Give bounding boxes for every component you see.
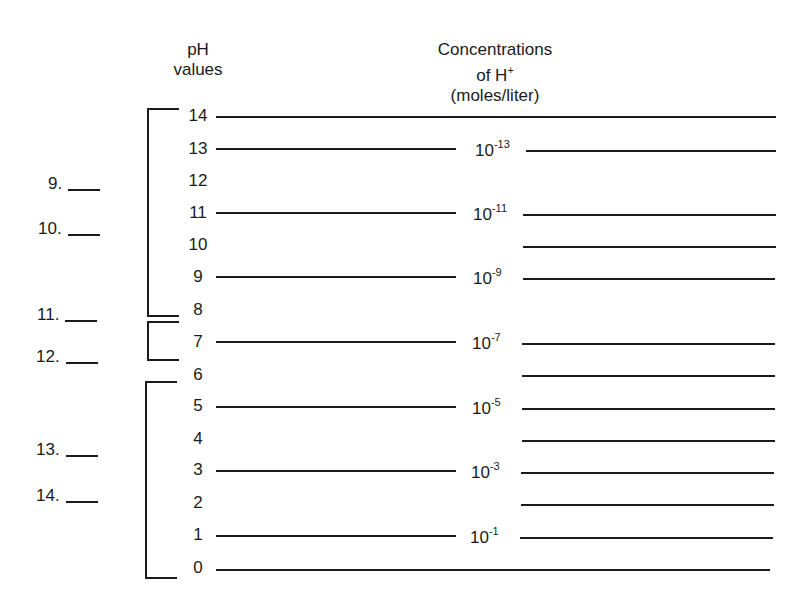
bracket-neutral — [147, 321, 179, 361]
answer-blank-14[interactable] — [66, 501, 98, 503]
line-right-ph-11 — [523, 214, 776, 216]
answer-blank-12[interactable] — [66, 362, 98, 364]
answer-9[interactable]: 9. — [48, 174, 100, 194]
ph-value-4: 4 — [183, 429, 213, 449]
line-ph-0 — [216, 569, 770, 571]
ph-value-6: 6 — [183, 365, 213, 385]
line-right-ph-7 — [522, 343, 775, 345]
ph-value-13: 13 — [183, 139, 213, 159]
ph-value-2: 2 — [183, 493, 213, 513]
line-right-ph-4 — [522, 440, 775, 442]
answer-11[interactable]: 11. — [37, 305, 97, 325]
conc-header-line3: (moles/liter) — [400, 86, 590, 106]
conc-header-line2: of H+ — [400, 60, 590, 86]
bracket-acidic — [145, 381, 177, 579]
conc-label-ph-9: 10-9 — [473, 269, 502, 289]
ph-value-0: 0 — [183, 558, 213, 578]
line-left-ph-3 — [216, 470, 456, 472]
line-right-ph-2 — [521, 504, 774, 506]
line-ph-14 — [216, 116, 776, 118]
ph-header: pH values — [168, 40, 228, 80]
conc-label-ph-1: 10-1 — [470, 528, 499, 548]
line-left-ph-5 — [216, 406, 456, 408]
line-left-ph-13 — [216, 148, 456, 150]
ph-value-7: 7 — [183, 332, 213, 352]
conc-label-ph-5: 10-5 — [472, 399, 501, 419]
line-right-ph-1 — [520, 537, 773, 539]
line-right-ph-9 — [523, 278, 775, 280]
ph-value-3: 3 — [183, 460, 213, 480]
answer-blank-13[interactable] — [66, 455, 98, 457]
line-left-ph-11 — [216, 212, 456, 214]
ph-value-8: 8 — [183, 300, 213, 320]
bracket-basic — [147, 108, 179, 317]
ph-value-5: 5 — [183, 396, 213, 416]
ph-header-line1: pH — [168, 40, 228, 60]
answer-blank-10[interactable] — [68, 234, 100, 236]
answer-10[interactable]: 10. — [38, 219, 100, 239]
line-right-ph-13 — [526, 150, 776, 152]
line-left-ph-9 — [216, 276, 456, 278]
answer-blank-11[interactable] — [65, 320, 97, 322]
answer-13[interactable]: 13. — [36, 440, 98, 460]
line-right-ph-5 — [522, 408, 775, 410]
conc-label-ph-13: 10-13 — [475, 141, 510, 161]
ph-value-12: 12 — [183, 171, 213, 191]
ph-header-line2: values — [168, 60, 228, 80]
line-left-ph-7 — [216, 341, 456, 343]
line-right-ph-3 — [521, 472, 774, 474]
line-right-ph-10 — [523, 246, 776, 248]
answer-12[interactable]: 12. — [36, 347, 98, 367]
answer-14[interactable]: 14. — [36, 486, 98, 506]
ph-value-1: 1 — [183, 525, 213, 545]
ph-value-14: 14 — [183, 106, 213, 126]
ph-value-9: 9 — [183, 267, 213, 287]
conc-label-ph-7: 10-7 — [472, 334, 501, 354]
line-right-ph-6 — [522, 375, 775, 377]
conc-label-ph-3: 10-3 — [471, 463, 500, 483]
ph-value-11: 11 — [183, 203, 213, 223]
concentration-header: Concentrations of H+ (moles/liter) — [400, 40, 590, 106]
ph-value-10: 10 — [183, 235, 213, 255]
answer-blank-9[interactable] — [68, 189, 100, 191]
line-left-ph-1 — [216, 535, 456, 537]
conc-label-ph-11: 10-11 — [473, 205, 507, 225]
conc-header-line1: Concentrations — [400, 40, 590, 60]
